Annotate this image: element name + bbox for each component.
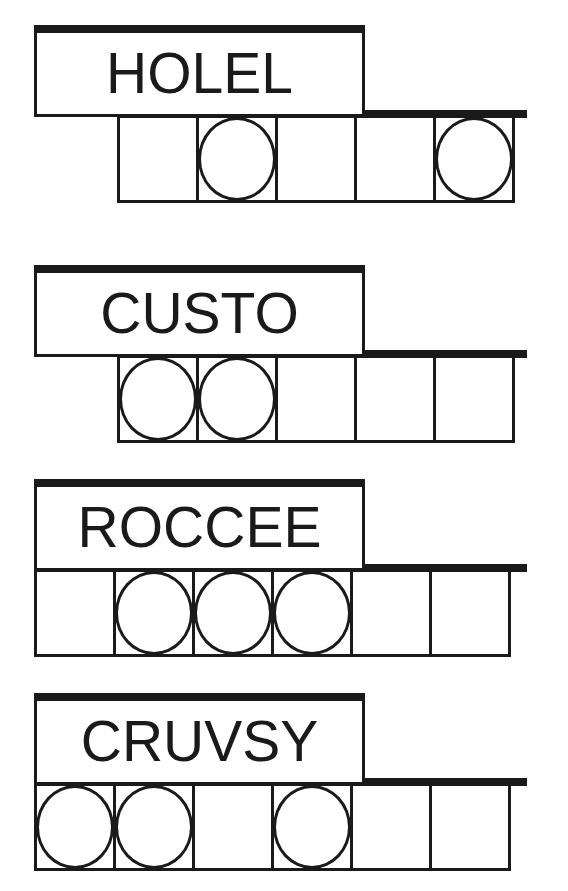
- circle-icon: [115, 571, 193, 655]
- jumbled-word-box: CRUVSY: [34, 693, 365, 785]
- circle-icon: [435, 117, 513, 201]
- jumble-puzzle-3: ROCCEE: [0, 479, 568, 669]
- answer-tile-circled[interactable]: [113, 569, 195, 657]
- circle-icon: [115, 785, 193, 869]
- circle-icon: [194, 571, 272, 655]
- circle-icon: [198, 117, 276, 201]
- answer-tile[interactable]: [275, 115, 357, 203]
- jumble-puzzle-2: CUSTO: [0, 265, 568, 455]
- answer-tile[interactable]: [350, 569, 432, 657]
- answer-tiles: [117, 115, 515, 203]
- answer-tile[interactable]: [117, 115, 199, 203]
- answer-tile[interactable]: [192, 783, 274, 871]
- jumble-puzzle-4: CRUVSY: [0, 693, 568, 883]
- answer-tile[interactable]: [429, 569, 511, 657]
- answer-tiles: [34, 569, 511, 657]
- jumbled-word: CRUVSY: [81, 712, 319, 770]
- answer-tile-circled[interactable]: [271, 783, 353, 871]
- circle-icon: [36, 785, 114, 869]
- answer-tile[interactable]: [354, 355, 436, 443]
- circle-icon: [198, 357, 276, 441]
- jumbled-word: CUSTO: [100, 284, 298, 342]
- answer-tile[interactable]: [433, 355, 515, 443]
- answer-tile-circled[interactable]: [192, 569, 274, 657]
- answer-tile-circled[interactable]: [34, 783, 116, 871]
- jumbled-word: ROCCEE: [78, 498, 322, 556]
- circle-icon: [119, 357, 197, 441]
- answer-tile[interactable]: [275, 355, 357, 443]
- answer-tile-circled[interactable]: [113, 783, 195, 871]
- answer-tile[interactable]: [429, 783, 511, 871]
- answer-tiles: [34, 783, 511, 871]
- answer-tile[interactable]: [34, 569, 116, 657]
- answer-tile-circled[interactable]: [271, 569, 353, 657]
- answer-tile-circled[interactable]: [196, 115, 278, 203]
- answer-tiles: [117, 355, 515, 443]
- jumbled-word-box: CUSTO: [34, 265, 365, 357]
- jumbled-word: HOLEL: [106, 44, 293, 102]
- jumbled-word-box: ROCCEE: [34, 479, 365, 571]
- answer-tile-circled[interactable]: [117, 355, 199, 443]
- jumble-puzzle-1: HOLEL: [0, 25, 568, 215]
- answer-tile[interactable]: [354, 115, 436, 203]
- answer-tile[interactable]: [350, 783, 432, 871]
- answer-tile-circled[interactable]: [433, 115, 515, 203]
- circle-icon: [273, 571, 351, 655]
- circle-icon: [273, 785, 351, 869]
- jumbled-word-box: HOLEL: [34, 25, 365, 117]
- answer-tile-circled[interactable]: [196, 355, 278, 443]
